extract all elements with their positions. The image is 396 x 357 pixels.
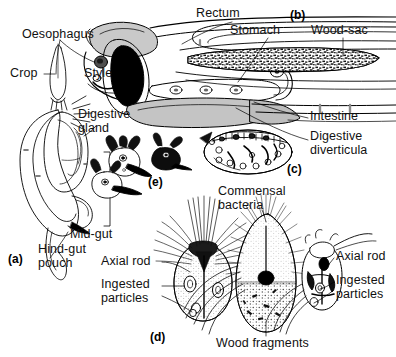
label-mid-gut: Mid-gut bbox=[70, 228, 112, 242]
label-hind-gut-pouch: Hind-gut pouch bbox=[38, 243, 86, 270]
panel-e-artwork bbox=[91, 133, 192, 198]
label-wood-fragments: Wood fragments bbox=[216, 337, 309, 351]
panel-label-e: (e) bbox=[148, 175, 163, 189]
label-rectum: Rectum bbox=[196, 7, 240, 21]
label-axial-rod-right: Axial rod bbox=[336, 250, 386, 264]
panel-label-a: (a) bbox=[8, 252, 23, 266]
label-ingested-particles-right: Ingested particles bbox=[336, 274, 385, 301]
diagram-artwork bbox=[0, 0, 396, 357]
label-style: Style bbox=[84, 67, 112, 81]
panel-label-c: (c) bbox=[287, 162, 302, 176]
label-oesophagus: Oesophagus bbox=[22, 28, 94, 42]
label-ingested-particles-left: Ingested particles bbox=[101, 278, 150, 305]
panel-label-d: (d) bbox=[150, 330, 165, 344]
label-digestive-gland: Digestive gland bbox=[78, 108, 130, 135]
panel-label-b: (b) bbox=[290, 8, 305, 22]
label-wood-sac: Wood-sac bbox=[311, 24, 368, 38]
figure-container: Oesophagus Crop Style Digestive gland Mi… bbox=[0, 0, 396, 357]
panel-c-artwork bbox=[200, 130, 292, 174]
label-crop: Crop bbox=[10, 67, 38, 81]
label-digestive-diverticula: Digestive diverticula bbox=[310, 130, 367, 157]
label-stomach: Stomach bbox=[230, 24, 280, 38]
label-commensal-bacteria: Commensal bacteria bbox=[218, 185, 286, 212]
label-intestine: Intestine bbox=[310, 110, 358, 124]
label-axial-rod-left: Axial rod bbox=[101, 255, 151, 269]
